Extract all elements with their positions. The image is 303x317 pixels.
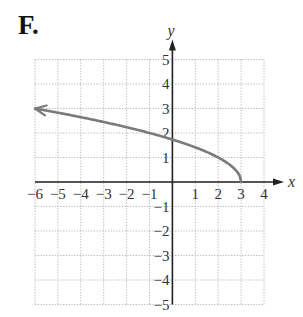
x-tick-label: −5 bbox=[50, 186, 66, 202]
y-tick-label: 5 bbox=[162, 52, 170, 68]
x-axis-arrow-icon bbox=[273, 179, 284, 186]
x-tick-label: −4 bbox=[73, 186, 89, 202]
x-tick-label: 2 bbox=[214, 186, 222, 202]
y-axis-label: y bbox=[165, 22, 175, 40]
x-tick-label: −3 bbox=[96, 186, 112, 202]
y-tick-label: −2 bbox=[153, 223, 169, 239]
y-tick-label: 1 bbox=[162, 150, 170, 166]
y-tick-label: −5 bbox=[153, 297, 169, 313]
y-tick-label: 4 bbox=[162, 76, 170, 92]
x-tick-label: −2 bbox=[119, 186, 135, 202]
function-curve bbox=[35, 106, 241, 182]
panel-label: F. bbox=[18, 12, 39, 39]
x-tick-label: −6 bbox=[27, 186, 43, 202]
curve-path bbox=[35, 109, 241, 183]
y-tick-label: 3 bbox=[162, 101, 170, 117]
y-tick-label: −4 bbox=[153, 272, 169, 288]
y-tick-label: −1 bbox=[153, 199, 169, 215]
graph-figure: F. xy −6−5−4−3−2−1123454321−1−2−3−4−5 bbox=[0, 0, 303, 317]
x-axis-label: x bbox=[287, 173, 295, 190]
x-tick-label: 4 bbox=[260, 186, 268, 202]
x-tick-label: 1 bbox=[192, 186, 200, 202]
y-tick-label: −3 bbox=[153, 248, 169, 264]
x-tick-label: 3 bbox=[237, 186, 245, 202]
y-axis-arrow-icon bbox=[169, 40, 176, 51]
coordinate-plane: xy −6−5−4−3−2−1123454321−1−2−3−4−5 bbox=[0, 0, 303, 317]
